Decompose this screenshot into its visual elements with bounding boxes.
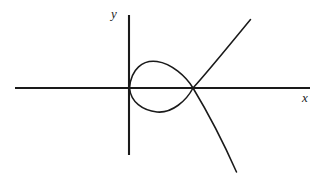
x-axis-label: x xyxy=(302,91,308,104)
y-axis-label: y xyxy=(111,7,117,20)
curve-plot xyxy=(0,0,323,177)
curve-loop-upper-arc xyxy=(130,61,194,88)
curve-lower-branch xyxy=(193,88,237,172)
curve-upper-branch xyxy=(193,20,251,89)
figure-canvas: y x xyxy=(0,0,323,177)
curve-loop-lower-arc xyxy=(130,88,194,112)
